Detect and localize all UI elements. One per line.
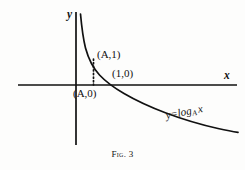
point-label-a-0: (A,0): [73, 88, 97, 99]
y-axis-label: y: [67, 9, 72, 21]
equation-function: log: [176, 104, 192, 118]
figure-caption-prefix: Fig.: [111, 149, 126, 159]
log-curve: [81, 14, 239, 132]
figure-container: y x (A,1) (1,0) (A,0) y=logAx Fig. 3: [0, 0, 245, 170]
x-axis-label: x: [224, 70, 230, 82]
figure-caption-number: 3: [129, 149, 134, 159]
plot-svg: [0, 0, 245, 170]
point-label-1-0: (1,0): [112, 68, 133, 79]
figure-caption: Fig. 3: [0, 150, 245, 159]
point-label-a-1: (A,1): [97, 49, 121, 60]
